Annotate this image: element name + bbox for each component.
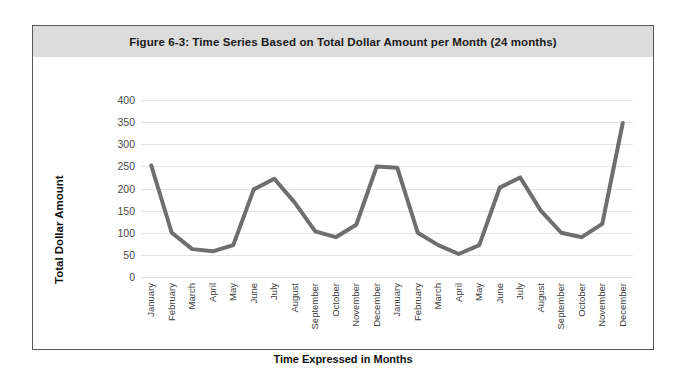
x-axis-tick-label: January	[146, 283, 156, 317]
x-axis-tick-label: November	[351, 283, 361, 327]
x-axis-tick-label: September	[556, 283, 566, 329]
x-axis-tick-label: August	[536, 283, 546, 313]
x-axis-tick-label: April	[454, 283, 464, 302]
x-axis-tick-label: February	[167, 283, 177, 321]
x-axis-tick-label: March	[187, 283, 197, 309]
x-axis-tick-label: August	[290, 283, 300, 313]
gridline	[141, 277, 633, 278]
y-axis-tick-label: 300	[117, 139, 135, 150]
y-axis-tick-label: 150	[117, 205, 135, 216]
x-axis-title: Time Expressed in Months	[33, 353, 653, 365]
x-axis-tick-label: July	[269, 283, 279, 300]
y-axis-tick-label: 0	[129, 272, 135, 283]
x-axis-tick-label: May	[228, 283, 238, 301]
figure-title: Figure 6-3: Time Series Based on Total D…	[129, 36, 557, 48]
y-axis-tick-label: 50	[123, 250, 135, 261]
y-axis-tick-label: 200	[117, 183, 135, 194]
series-line	[151, 123, 623, 254]
figure-container: Figure 6-3: Time Series Based on Total D…	[32, 25, 654, 350]
y-axis-tick-label: 100	[117, 228, 135, 239]
figure-title-bar: Figure 6-3: Time Series Based on Total D…	[33, 26, 653, 57]
line-series	[141, 100, 633, 277]
x-axis-tick-label: December	[618, 283, 628, 327]
x-axis-tick-label: June	[249, 283, 259, 304]
x-axis-tick-label: May	[474, 283, 484, 301]
x-axis-tick-label: February	[413, 283, 423, 321]
x-axis-tick-label: June	[495, 283, 505, 304]
y-axis-tick-label: 350	[117, 117, 135, 128]
x-axis-tick-label: April	[208, 283, 218, 302]
x-axis-tick-label: January	[392, 283, 402, 317]
chart-area: Total Dollar Amount 05010015020025030035…	[33, 57, 653, 349]
y-axis-title: Total Dollar Amount	[51, 160, 67, 300]
x-axis-tick-label: July	[515, 283, 525, 300]
x-axis-tick-label: November	[597, 283, 607, 327]
x-axis-tick-label: December	[372, 283, 382, 327]
plot-area: 050100150200250300350400 JanuaryFebruary…	[141, 100, 633, 277]
y-axis-tick-label: 400	[117, 95, 135, 106]
x-axis-tick-label: October	[331, 283, 341, 317]
y-axis-tick-label: 250	[117, 161, 135, 172]
x-axis-tick-label: October	[577, 283, 587, 317]
x-axis-tick-label: September	[310, 283, 320, 329]
x-axis-tick-label: March	[433, 283, 443, 309]
